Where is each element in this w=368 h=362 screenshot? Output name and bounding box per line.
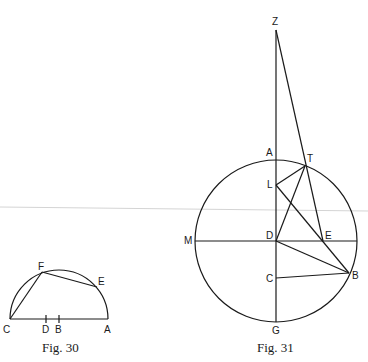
- scan-artifact-line: [0, 207, 368, 211]
- label-G: G: [272, 325, 280, 336]
- line-LB: [276, 185, 349, 273]
- label-F: F: [38, 261, 44, 272]
- label-A: A: [104, 324, 111, 335]
- label-L: L: [267, 179, 273, 190]
- label-Z: Z: [272, 16, 278, 27]
- label-D: D: [266, 230, 273, 241]
- caption-fig-31: Fig. 31: [257, 340, 294, 355]
- figure-30: C D B A F E Fig. 30: [3, 261, 111, 355]
- line-ZE: [276, 30, 323, 241]
- chord-CF: [10, 272, 42, 319]
- caption-fig-30: Fig. 30: [42, 340, 79, 355]
- line-CB: [276, 273, 349, 278]
- label-C: C: [3, 324, 10, 335]
- label-D: D: [42, 324, 49, 335]
- label-B: B: [352, 270, 359, 281]
- label-C: C: [266, 273, 273, 284]
- label-B: B: [55, 324, 62, 335]
- label-M: M: [184, 235, 192, 246]
- semicircle-arc: [10, 270, 108, 319]
- diagram-canvas: C D B A F E Fig. 30 Z A T L M D E B C G: [0, 0, 368, 362]
- label-E: E: [98, 276, 105, 287]
- line-DB: [276, 241, 349, 273]
- figure-31: Z A T L M D E B C G Fig. 31: [184, 16, 359, 355]
- label-E: E: [325, 230, 332, 241]
- line-LT: [276, 166, 305, 185]
- line-TD: [276, 166, 305, 241]
- label-A: A: [266, 147, 273, 158]
- label-T: T: [307, 153, 313, 164]
